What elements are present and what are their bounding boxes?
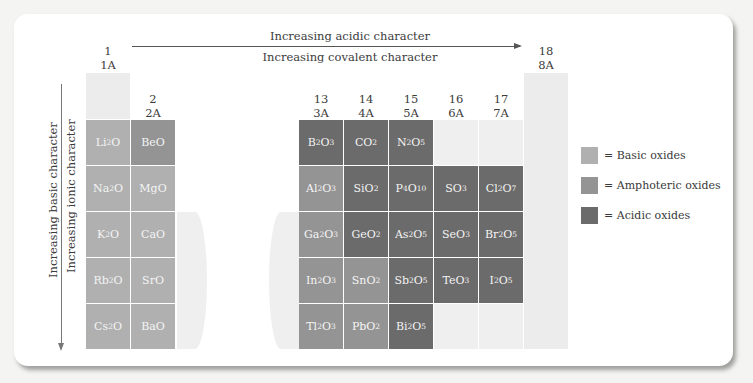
group-18-header: 18 8A (524, 44, 568, 72)
group-13-header: 13 3A (299, 92, 343, 120)
oxide-cell-as2o5: As2O5 (389, 212, 433, 257)
covalent-character-label: Increasing covalent character (200, 50, 500, 64)
vertical-arrow-icon (61, 84, 62, 349)
oxide-cell-geo2: GeO2 (344, 212, 388, 257)
group-1-old: 1A (86, 58, 130, 72)
acidic-character-label: Increasing acidic character (200, 29, 500, 43)
legend-item-basic: = Basic oxides (581, 147, 686, 164)
oxide-cell-co2: CO2 (344, 120, 388, 165)
oxide-cell-cl2o7: Cl2O7 (479, 166, 523, 211)
group-16-number: 16 (434, 92, 478, 106)
oxide-cell-n2o5: N2O5 (389, 120, 433, 165)
transition-gap-right-edge (269, 212, 299, 349)
oxide-cell-bi2o5: Bi2O5 (389, 304, 433, 349)
oxide-cell-li2o: Li2O (86, 120, 130, 165)
group-13-old: 3A (299, 106, 343, 120)
oxide-cell-pbo2: PbO2 (344, 304, 388, 349)
legend-label-basic: = Basic oxides (604, 149, 686, 162)
oxide-cell-bao: BaO (131, 304, 175, 349)
group-17-placeholder-row5 (479, 304, 523, 349)
oxide-cell-rb2o: Rb2O (86, 258, 130, 303)
group-18-number: 18 (524, 44, 568, 58)
group-16-header: 16 6A (434, 92, 478, 120)
group-2-number: 2 (131, 92, 175, 106)
group-1-number: 1 (86, 44, 130, 58)
oxide-cell-in2o3: In2O3 (299, 258, 343, 303)
oxide-cell-tl2o3: Tl2O3 (299, 304, 343, 349)
oxide-cell-i2o5: I2O5 (479, 258, 523, 303)
group-17-old: 7A (479, 106, 523, 120)
oxide-cell-mgo: MgO (131, 166, 175, 211)
group-1-header: 1 1A (86, 44, 130, 72)
group-18-placeholder-column (524, 73, 568, 349)
group-14-header: 14 4A (344, 92, 388, 120)
group-16-old: 6A (434, 106, 478, 120)
oxide-cell-sro: SrO (131, 258, 175, 303)
legend-label-acidic: = Acidic oxides (604, 209, 690, 222)
basic-swatch-icon (581, 147, 598, 164)
group-15-header: 15 5A (389, 92, 433, 120)
group-17-placeholder-row1 (479, 120, 523, 165)
acidic-swatch-icon (581, 207, 598, 224)
horizontal-arrow-icon (132, 46, 520, 47)
oxide-cell-al2o3: Al2O3 (299, 166, 343, 211)
oxide-cell-br2o5: Br2O5 (479, 212, 523, 257)
group-2-old: 2A (131, 106, 175, 120)
group-14-old: 4A (344, 106, 388, 120)
group-15-number: 15 (389, 92, 433, 106)
oxide-cell-sno2: SnO2 (344, 258, 388, 303)
oxide-cell-ga2o3: Ga2O3 (299, 212, 343, 257)
legend-label-amphoteric: = Amphoteric oxides (604, 179, 721, 192)
oxide-cell-b2o3: B2O3 (299, 120, 343, 165)
basic-character-label: Increasing basic character (46, 122, 60, 278)
group-2-header: 2 2A (131, 92, 175, 120)
oxide-cell-teo3: TeO3 (434, 258, 478, 303)
ionic-character-label: Increasing ionic character (64, 119, 78, 273)
oxide-cell-sb2o5: Sb2O5 (389, 258, 433, 303)
legend-item-amphoteric: = Amphoteric oxides (581, 177, 721, 194)
group-16-placeholder-row5 (434, 304, 478, 349)
oxide-cell-na2o: Na2O (86, 166, 130, 211)
oxide-cell-seo3: SeO3 (434, 212, 478, 257)
oxide-cell-cs2o: Cs2O (86, 304, 130, 349)
oxide-cell-cao: CaO (131, 212, 175, 257)
transition-gap-left-edge (177, 212, 207, 349)
group-17-header: 17 7A (479, 92, 523, 120)
group-18-old: 8A (524, 58, 568, 72)
group-16-placeholder-row1 (434, 120, 478, 165)
group-13-number: 13 (299, 92, 343, 106)
hydrogen-placeholder-cell (86, 73, 130, 119)
group-15-old: 5A (389, 106, 433, 120)
oxide-cell-k2o: K2O (86, 212, 130, 257)
group-14-number: 14 (344, 92, 388, 106)
oxide-cell-p4o10: P4O10 (389, 166, 433, 211)
oxide-cell-sio2: SiO2 (344, 166, 388, 211)
group-17-number: 17 (479, 92, 523, 106)
oxide-cell-so3: SO3 (434, 166, 478, 211)
legend-item-acidic: = Acidic oxides (581, 207, 690, 224)
amphoteric-swatch-icon (581, 177, 598, 194)
oxide-cell-beo: BeO (131, 120, 175, 165)
